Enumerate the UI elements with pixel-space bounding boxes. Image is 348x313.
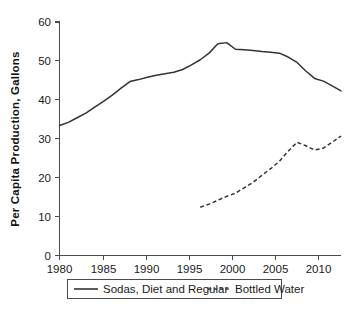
x-tick-label-2005: 2005 bbox=[263, 263, 289, 275]
series-line-bottled-water bbox=[200, 136, 341, 207]
series-line-sodas bbox=[60, 43, 342, 126]
y-tick-label-50: 50 bbox=[38, 55, 51, 67]
x-axis-ticks: 1980 1985 1990 1995 2000 2005 2010 bbox=[47, 256, 332, 276]
y-tick-label-0: 0 bbox=[45, 250, 51, 262]
legend-label-bottled-water: Bottled Water bbox=[235, 283, 304, 295]
x-tick-label-1995: 1995 bbox=[177, 263, 203, 275]
y-axis-ticks: 0 10 20 30 40 50 60 bbox=[38, 16, 59, 262]
x-tick-label-1990: 1990 bbox=[134, 263, 160, 275]
x-tick-label-2010: 2010 bbox=[306, 263, 332, 275]
chart-figure: Per Capita Production, Gallons 0 10 20 3… bbox=[0, 0, 348, 313]
y-tick-label-40: 40 bbox=[38, 94, 51, 106]
y-tick-label-10: 10 bbox=[38, 211, 51, 223]
line-chart: Per Capita Production, Gallons 0 10 20 3… bbox=[0, 0, 348, 313]
chart-legend: Sodas, Diet and Regular Bottled Water bbox=[68, 280, 305, 299]
series-group bbox=[60, 43, 342, 208]
y-axis-title: Per Capita Production, Gallons bbox=[9, 51, 21, 226]
y-tick-label-20: 20 bbox=[38, 172, 51, 184]
x-tick-label-1985: 1985 bbox=[91, 263, 117, 275]
axes bbox=[60, 22, 342, 256]
x-tick-label-1980: 1980 bbox=[47, 263, 73, 275]
x-tick-label-2000: 2000 bbox=[220, 263, 246, 275]
y-tick-label-30: 30 bbox=[38, 133, 51, 145]
y-tick-label-60: 60 bbox=[38, 16, 51, 28]
